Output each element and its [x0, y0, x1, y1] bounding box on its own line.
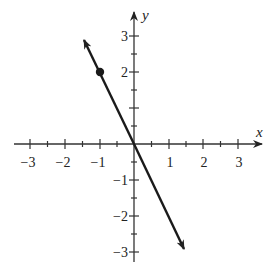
- x-tick-label: −1: [91, 155, 106, 170]
- graph-line: [134, 144, 184, 249]
- y-tick-label: 3: [121, 29, 128, 44]
- graph-line: [84, 40, 134, 144]
- x-tick-label: 2: [201, 155, 208, 170]
- coordinate-plane: −3 −2 −1 1 2 3 3 2 −1 −2 −3 x y: [0, 0, 273, 264]
- y-tick-label: −1: [113, 173, 128, 188]
- y-axis-label: y: [140, 7, 149, 23]
- x-tick-label: 3: [236, 155, 243, 170]
- x-axis-label: x: [255, 124, 263, 140]
- plotted-point: [96, 68, 104, 76]
- x-tick-label: −3: [21, 155, 36, 170]
- x-tick-label: 1: [167, 155, 174, 170]
- x-tick-label: −2: [56, 155, 71, 170]
- y-tick-label: 2: [121, 65, 128, 80]
- y-tick-label: −3: [113, 245, 128, 260]
- y-tick-label: −2: [113, 209, 128, 224]
